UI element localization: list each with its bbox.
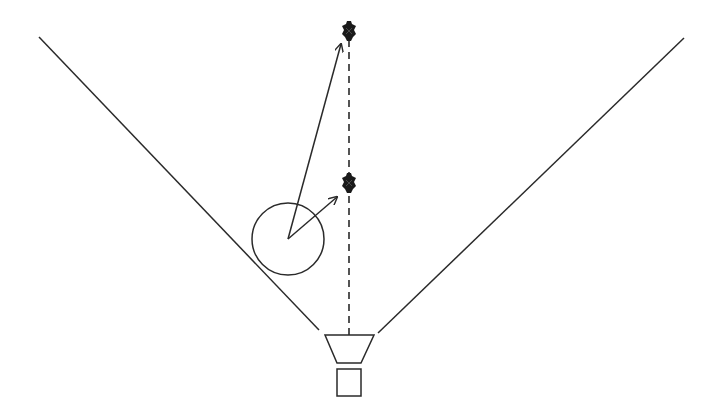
vector-to-far-target-arrow xyxy=(288,44,341,239)
camera-fov-diagram xyxy=(0,0,720,411)
far-target-marker-icon xyxy=(342,21,356,41)
left-fov-boundary-line xyxy=(39,37,319,330)
camera-body-square xyxy=(337,369,361,396)
camera-lens-trapezoid xyxy=(325,335,374,363)
near-target-marker-icon xyxy=(342,173,356,193)
right-fov-boundary-line xyxy=(378,38,684,333)
